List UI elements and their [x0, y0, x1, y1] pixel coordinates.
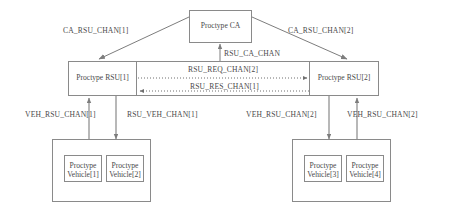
vehicle4-node-label: Proctype Vehicle[4] — [346, 161, 384, 180]
channel-label-rsu-ca-chan: RSU_CA_CHAN — [224, 50, 280, 58]
rsu1-node-label: Proctype RSU[1] — [68, 74, 137, 83]
vehicle1-node-label: Proctype Vehicle[1] — [64, 161, 102, 180]
vehicle1-label-line1: Proctype — [70, 161, 97, 170]
vehicle4-label-line1: Proctype — [352, 161, 379, 170]
channel-label-veh-rsu-chan-2-right: VEH_RSU_CHAN[2] — [347, 111, 418, 119]
vehicle3-label-line2: Vehicle[3] — [307, 170, 339, 179]
channel-label-ca-rsu-chan-1: CA_RSU_CHAN[1] — [63, 27, 128, 35]
vehicle1-label-line2: Vehicle[1] — [67, 170, 99, 179]
vehicle3-node-label: Proctype Vehicle[3] — [304, 161, 342, 180]
channel-label-ca-rsu-chan-2: CA_RSU_CHAN[2] — [288, 27, 353, 35]
ca-node-label: Proctype CA — [189, 22, 252, 31]
channel-label-veh-rsu-chan-1: VEH_RSU_CHAN[1] — [25, 111, 96, 119]
edge-ca-rsu1 — [99, 17, 189, 59]
vehicle2-label-line2: Vehicle[2] — [109, 170, 141, 179]
vehicle3-label-line1: Proctype — [310, 161, 337, 170]
vehicle2-label-line1: Proctype — [112, 161, 139, 170]
channel-label-rsu-veh-chan-1: RSU_VEH_CHAN[1] — [127, 111, 198, 119]
channel-label-rsu-res-chan-1: RSU_RES_CHAN[1] — [190, 83, 259, 91]
diagram-canvas: Proctype CA Proctype RSU[1] Proctype RSU… — [0, 0, 449, 215]
rsu2-node-label: Proctype RSU[2] — [309, 74, 379, 83]
vehicle4-label-line2: Vehicle[4] — [349, 170, 381, 179]
channel-label-veh-rsu-chan-2-left: VEH_RSU_CHAN[2] — [246, 111, 317, 119]
vehicle2-node-label: Proctype Vehicle[2] — [106, 161, 144, 180]
channel-label-rsu-req-chan-2: RSU_REQ_CHAN[2] — [188, 66, 258, 74]
